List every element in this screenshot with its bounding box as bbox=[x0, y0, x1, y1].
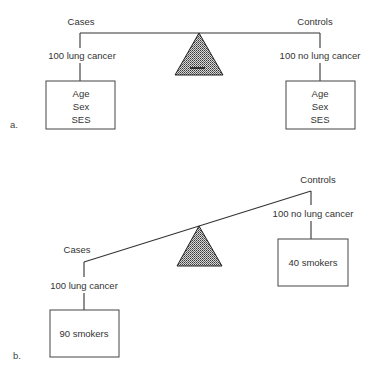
fulcrum-triangle-icon bbox=[177, 226, 222, 266]
controls-box-line-sex: Sex bbox=[312, 101, 329, 112]
panel-b: Controls 100 no lung cancer 40 smokers C… bbox=[13, 174, 353, 361]
controls-count-label-a: 100 no lung cancer bbox=[280, 50, 361, 61]
cases-count-label-b: 100 lung cancer bbox=[50, 280, 118, 291]
controls-label-a: Controls bbox=[297, 16, 333, 27]
cases-box-line-age: Age bbox=[73, 88, 90, 99]
balance-diagram: Cases 100 lung cancer Age Sex SES Contro… bbox=[0, 0, 372, 367]
panel-label-b: b. bbox=[13, 350, 21, 361]
panel-a: Cases 100 lung cancer Age Sex SES Contro… bbox=[10, 16, 360, 130]
controls-box-line-ses: SES bbox=[310, 114, 329, 125]
cases-box-line-ses: SES bbox=[71, 114, 90, 125]
cases-box-line-sex: Sex bbox=[73, 101, 90, 112]
panel-label-a: a. bbox=[10, 119, 18, 130]
controls-label-b: Controls bbox=[300, 174, 336, 185]
controls-box-line-age: Age bbox=[312, 88, 329, 99]
controls-smokers-label: 40 smokers bbox=[288, 257, 337, 268]
controls-count-label-b: 100 no lung cancer bbox=[273, 208, 354, 219]
cases-count-label-a: 100 lung cancer bbox=[48, 50, 116, 61]
cases-label-b: Cases bbox=[64, 244, 91, 255]
cases-label-a: Cases bbox=[68, 16, 95, 27]
cases-smokers-label: 90 smokers bbox=[59, 328, 108, 339]
